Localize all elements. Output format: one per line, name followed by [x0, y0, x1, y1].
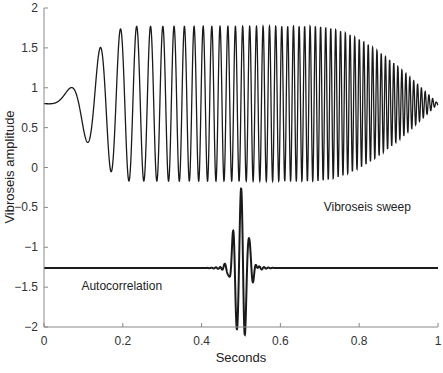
x-tick-label: 0.8: [351, 334, 368, 348]
x-tick-label: 0.2: [114, 334, 131, 348]
y-ticks: −2−1.5−1−0.500.511.52: [14, 1, 48, 334]
y-tick-label: 1.5: [21, 41, 38, 55]
x-tick-label: 0.6: [272, 334, 289, 348]
x-axis-label: Seconds: [216, 350, 267, 365]
x-tick-label: 0: [41, 334, 48, 348]
y-tick-label: 2: [31, 1, 38, 15]
x-tick-label: 1: [435, 334, 442, 348]
y-tick-label: −2: [24, 320, 38, 334]
y-tick-label: −1.5: [14, 280, 38, 294]
y-tick-label: 0.5: [21, 121, 38, 135]
y-axis-label: Vibroseis amplitude: [2, 110, 17, 223]
annotation-vibroseis-sweep: Vibroseis sweep: [324, 200, 411, 214]
series-vibroseis-sweep: [44, 26, 438, 181]
chart: 00.20.40.60.81 −2−1.5−1−0.500.511.52 Sec…: [0, 0, 443, 373]
y-tick-label: −0.5: [14, 200, 38, 214]
y-tick-label: −1: [24, 240, 38, 254]
x-tick-label: 0.4: [193, 334, 210, 348]
y-tick-label: 0: [31, 161, 38, 175]
annotation-autocorrelation: Autocorrelation: [81, 279, 162, 293]
y-tick-label: 1: [31, 81, 38, 95]
